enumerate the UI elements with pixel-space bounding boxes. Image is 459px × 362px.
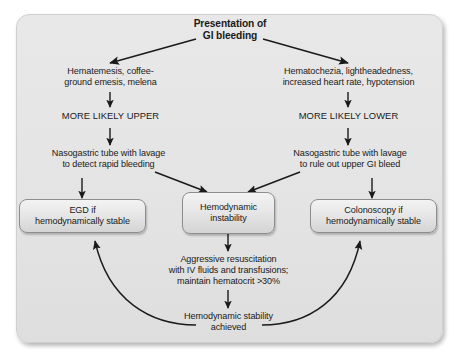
- figure-canvas: Presentation of GI bleeding Hematemesis,…: [0, 0, 459, 362]
- node-ng-tube-left: Nasogastric tube with lavage to detect r…: [23, 148, 194, 170]
- node-more-likely-upper: MORE LIKELY UPPER: [35, 110, 186, 121]
- node-upper-symptoms: Hematemesis, coffee- ground emesis, mele…: [32, 66, 189, 88]
- node-more-likely-lower: MORE LIKELY LOWER: [273, 110, 424, 121]
- node-resuscitation: Aggressive resuscitation with IV fluids …: [146, 254, 311, 288]
- node-egd-box[interactable]: EGD if hemodynamically stable: [19, 199, 146, 233]
- node-colonoscopy-box[interactable]: Colonoscopy if hemodynamically stable: [310, 199, 437, 233]
- diagram-panel: [16, 14, 443, 343]
- node-lower-symptoms: Hematochezia, lightheadedness, increased…: [262, 66, 435, 88]
- node-stability-achieved: Hemodynamic stability achieved: [158, 311, 299, 333]
- node-hemodynamic-instability-box[interactable]: Hemodynamic instability: [182, 192, 275, 234]
- node-title: Presentation of GI bleeding: [164, 18, 296, 42]
- node-ng-tube-right: Nasogastric tube with lavage to rule out…: [262, 148, 438, 170]
